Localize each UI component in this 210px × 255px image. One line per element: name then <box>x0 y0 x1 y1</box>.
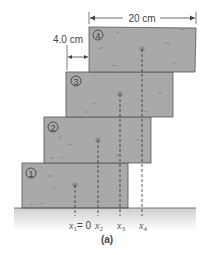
x1-label: x1= 0 <box>68 220 92 233</box>
block-1-number: 1 <box>28 169 33 179</box>
width-label: 20 cm <box>128 13 155 24</box>
ground-shading <box>14 208 196 230</box>
block-3: 3 <box>66 72 173 117</box>
block-2-number: 2 <box>50 123 55 133</box>
offset-label: 4.0 cm <box>53 34 83 45</box>
figure-caption: (a) <box>101 234 113 245</box>
block-3-number: 3 <box>73 77 78 87</box>
width-dimension: 20 cm <box>89 12 196 24</box>
stacked-blocks-figure: 1 2 3 4 <box>0 0 210 255</box>
block-4: 4 <box>89 27 196 72</box>
block-2: 2 <box>44 117 151 163</box>
offset-dimension: 4.0 cm <box>53 34 88 70</box>
block-4-number: 4 <box>95 31 100 41</box>
